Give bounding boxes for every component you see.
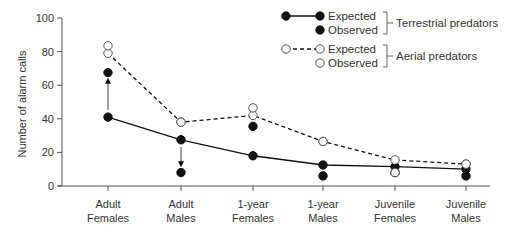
- terrestrial-observed-point: [249, 122, 257, 130]
- aerial-observed-point: [462, 160, 470, 168]
- terrestrial-observed-point: [104, 68, 112, 76]
- legend-marker-swatch: [282, 12, 290, 20]
- terrestrial-observed-point: [462, 172, 470, 180]
- aerial-observed-point: [391, 168, 399, 176]
- legend-marker-swatch: [282, 45, 290, 53]
- y-tick-label: 40: [42, 113, 54, 125]
- x-tick-label: Adult: [95, 198, 120, 210]
- x-tick-label: Juvenile: [375, 198, 415, 210]
- legend-entry-label: Expected: [328, 10, 376, 22]
- x-tick-label: Females: [232, 212, 275, 224]
- alarm-calls-chart: 020406080100Number of alarm callsAdultFe…: [0, 0, 507, 236]
- legend-bracket: [383, 45, 387, 67]
- terrestrial-observed-point: [319, 172, 327, 180]
- aerial-observed-point: [319, 137, 327, 145]
- legend-entry-label: Observed: [328, 24, 378, 36]
- legend-group-label: Aerial predators: [396, 50, 477, 62]
- x-tick-label: Juvenile: [446, 198, 486, 210]
- terrestrial-expected-point: [104, 113, 112, 121]
- y-axis-label: Number of alarm calls: [16, 50, 28, 157]
- legend-group-label: Terrestrial predators: [396, 17, 499, 29]
- legend-marker-swatch: [316, 59, 324, 67]
- y-tick-label: 80: [42, 46, 54, 58]
- terrestrial-expected-point: [249, 152, 257, 160]
- legend-marker-swatch: [316, 12, 324, 20]
- aerial-observed-point: [177, 118, 185, 126]
- legend-entry-label: Expected: [328, 43, 376, 55]
- terrestrial-expected-point: [177, 136, 185, 144]
- x-tick-label: Males: [166, 212, 196, 224]
- legend-entry-label: Observed: [328, 57, 378, 69]
- aerial-observed-point: [249, 104, 257, 112]
- y-tick-label: 60: [42, 79, 54, 91]
- legend: ExpectedObservedExpectedObservedTerrestr…: [282, 10, 499, 69]
- x-tick-label: Males: [308, 212, 338, 224]
- aerial-expected-line: [108, 53, 466, 164]
- series-layer: [104, 42, 470, 181]
- legend-bracket: [383, 12, 387, 34]
- x-tick-label: Females: [374, 212, 417, 224]
- y-tick-label: 20: [42, 146, 54, 158]
- aerial-observed-point: [104, 42, 112, 50]
- legend-marker-swatch: [316, 26, 324, 34]
- aerial-expected-point: [391, 156, 399, 164]
- terrestrial-observed-point: [177, 168, 185, 176]
- x-tick-label: 1-year: [237, 198, 269, 210]
- x-tick-label: Females: [87, 212, 130, 224]
- x-tick-label: Adult: [168, 198, 193, 210]
- terrestrial-expected-point: [319, 161, 327, 169]
- x-tick-label: 1-year: [307, 198, 339, 210]
- x-tick-label: Males: [451, 212, 481, 224]
- legend-marker-swatch: [316, 45, 324, 53]
- y-tick-label: 100: [36, 12, 54, 24]
- y-tick-label: 0: [48, 180, 54, 192]
